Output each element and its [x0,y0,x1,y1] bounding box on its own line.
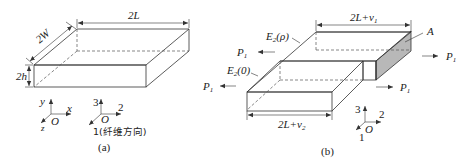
shaded-face-a [376,31,411,80]
axes-123-b: 3 2 O 1 [355,103,385,143]
axis-3-label: 3 [93,96,99,108]
caption-b: (b) [321,145,334,158]
label-e2-zero: E2(0) [226,64,258,78]
axis-x-label: x [66,102,72,114]
force-left-lower: P1 [202,80,236,94]
axis-3-label: 3 [355,103,361,115]
axis-2-label: 2 [118,101,124,113]
block-a [34,29,189,87]
figure-a: 2L 2W 2h y x z O [16,9,189,154]
label-2w: 2W [33,26,53,45]
dim-2l-v2: 2L+v2 [247,111,332,132]
label-e2-rho: E2(ρ) [265,30,300,44]
axis-y-label: y [39,95,45,107]
dim-2l-v1: 2L+v1 [316,11,411,31]
svg-text:E2(0): E2(0) [226,64,250,78]
axis-1-label: 1 [359,131,365,143]
axis-2-label: 2 [379,108,385,120]
label-2l-v2: 2L+v2 [278,118,306,132]
dim-2h: 2h [16,65,33,87]
diagram-canvas: 2L 2W 2h y x z O [0,0,470,166]
svg-text:P1: P1 [202,80,213,94]
svg-text:P1: P1 [445,50,456,64]
label-2l-v1: 2L+v1 [350,11,377,25]
axis-origin-label: O [101,113,109,125]
svg-text:A: A [426,25,434,37]
axes-123-a: 3 2 O 1(纤维方向) [89,96,146,137]
svg-text:E2(ρ): E2(ρ) [265,30,289,44]
axis-1-fiber-label: 1(纤维方向) [93,126,146,137]
force-right-upper: P1 [422,50,456,64]
force-left-upper: P1 [236,46,275,60]
figure-b: 2L+v1 2L+v2 E2(ρ) E2(0) A P1 [202,11,456,158]
axis-origin-label: O [365,123,373,135]
label-2h: 2h [16,70,28,82]
dim-2l: 2L [77,9,189,28]
label-2l: 2L [128,9,140,21]
svg-text:P1: P1 [236,46,247,60]
axis-z-label: z [40,123,45,133]
axes-xyz: y x z O [39,95,72,133]
force-right-lower: P1 [376,81,410,95]
svg-text:P1: P1 [399,81,410,95]
axis-origin-label: O [51,115,59,127]
caption-a: (a) [98,141,111,154]
